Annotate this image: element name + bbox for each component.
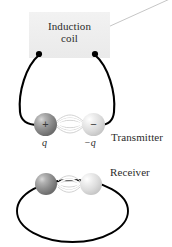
positive-charge-label: q bbox=[42, 137, 47, 148]
receiver-left-sphere bbox=[35, 173, 57, 195]
negative-charge-label: −q bbox=[84, 137, 96, 148]
positive-sign: + bbox=[34, 119, 57, 130]
transmitter-positive-sphere: + bbox=[34, 113, 57, 136]
transmitter-field-lines bbox=[56, 115, 84, 133]
transmitter-left-wire bbox=[20, 55, 39, 125]
transmitter-negative-sphere: − bbox=[82, 113, 105, 136]
negative-sign: − bbox=[82, 119, 105, 130]
receiver-right-sphere bbox=[80, 173, 102, 195]
left-terminal-dot bbox=[36, 51, 42, 57]
receiver-field-lines bbox=[57, 176, 81, 193]
right-terminal-dot bbox=[92, 51, 98, 57]
transmitter-label: Transmitter bbox=[111, 131, 163, 143]
receiver-label: Receiver bbox=[110, 166, 150, 178]
physics-figure: Induction coil bbox=[0, 0, 172, 247]
